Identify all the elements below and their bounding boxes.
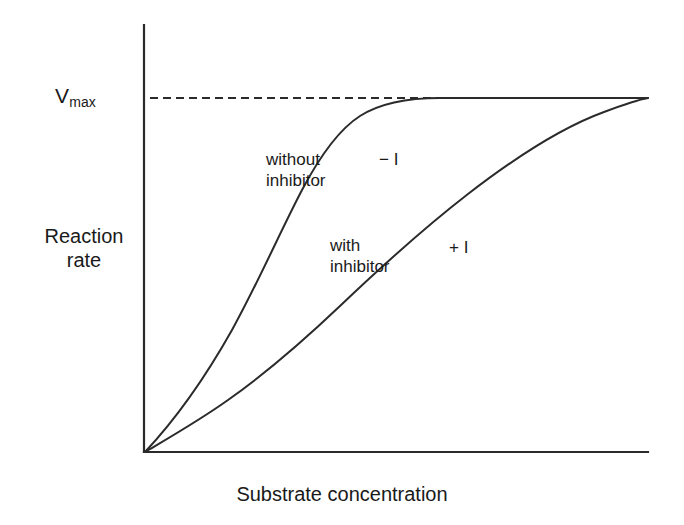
with-inhibitor-label-line1: with bbox=[330, 236, 390, 257]
vmax-subscript: max bbox=[69, 94, 95, 110]
without-inhibitor-label-line2: inhibitor bbox=[266, 171, 326, 192]
y-axis-label-line1: Reaction bbox=[28, 224, 140, 248]
without-inhibitor-label: withoutinhibitor bbox=[266, 150, 326, 191]
without-inhibitor-label-line1: without bbox=[266, 150, 326, 171]
y-axis-label: Reactionrate bbox=[28, 224, 140, 273]
vmax-symbol: V bbox=[55, 84, 69, 107]
x-axis-label: Substrate concentration bbox=[0, 482, 684, 506]
vmax-axis-label: Vmax bbox=[55, 83, 96, 111]
y-axis-label-line2: rate bbox=[28, 248, 140, 272]
enzyme-kinetics-chart: Vmax Reactionrate Substrate concentratio… bbox=[0, 0, 684, 525]
with-inhibitor-label-line2: inhibitor bbox=[330, 257, 390, 278]
with-inhibitor-label: withinhibitor bbox=[330, 236, 390, 277]
minus-inhibitor-annotation: − I bbox=[379, 150, 398, 171]
plus-inhibitor-annotation: + I bbox=[449, 238, 468, 259]
